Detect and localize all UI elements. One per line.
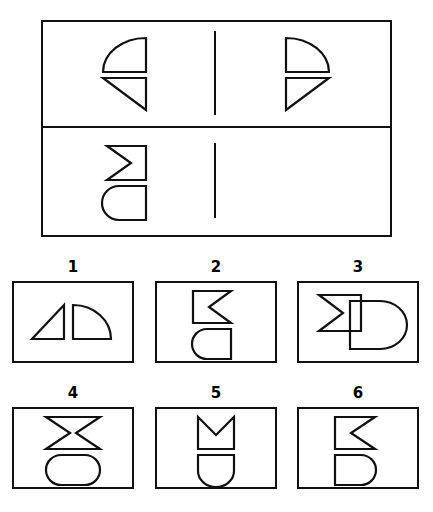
quarter-circle-arc-top-left-shape [103, 38, 146, 72]
stimulus-row2-left-cell [99, 142, 161, 224]
stimulus-row1-separator [214, 31, 216, 115]
d-shape-round-right-shape [335, 455, 376, 485]
right-triangle-hypotenuse-top-right-shape [286, 78, 329, 110]
chevron-notch-top-shape [198, 417, 234, 449]
answer-option-4-art [14, 409, 132, 487]
answer-option-6-box [297, 407, 419, 489]
answer-option-5-box [155, 407, 277, 489]
bowtie-shape [46, 417, 100, 449]
answer-option-3-box [297, 281, 419, 363]
answer-option-2[interactable]: 2 [155, 258, 277, 370]
answer-option-2-art [157, 283, 275, 361]
answer-option-5-label: 5 [155, 384, 277, 402]
d-shape-round-right-shape [350, 301, 407, 349]
d-shape-round-left-shape [102, 186, 146, 220]
answer-option-1-label: 1 [12, 258, 134, 276]
answer-option-2-label: 2 [155, 258, 277, 276]
stimulus-row2-separator [214, 143, 216, 218]
answer-option-6-label: 6 [297, 384, 419, 402]
right-triangle-shape [32, 305, 64, 339]
chevron-notch-right-shape [193, 291, 231, 323]
answer-option-6-art [299, 409, 417, 487]
answer-option-1[interactable]: 1 [12, 258, 134, 370]
answer-option-5[interactable]: 5 [155, 384, 277, 496]
answer-option-4[interactable]: 4 [12, 384, 134, 496]
chevron-notch-right-shape [335, 417, 375, 449]
stimulus-row1-left-cell [99, 34, 161, 114]
quarter-circle-arc-top-right-shape [286, 38, 329, 72]
answer-option-1-art [14, 283, 132, 361]
answer-option-3[interactable]: 3 [297, 258, 419, 370]
answer-option-2-box [155, 281, 277, 363]
answer-option-4-box [12, 407, 134, 489]
answer-option-1-box [12, 281, 134, 363]
answer-option-5-art [157, 409, 275, 487]
test-item-page: 1 2 [0, 0, 433, 512]
stimulus-row1-right-cell [271, 34, 333, 114]
stimulus-row2-right-cell-blank [271, 142, 333, 224]
stimulus-row-divider [43, 126, 390, 128]
d-shape-round-left-shape [192, 329, 231, 359]
stadium-shape [46, 455, 100, 485]
stimulus-panel [41, 20, 392, 237]
answer-option-4-label: 4 [12, 384, 134, 402]
answer-option-3-art [299, 283, 417, 361]
chevron-notch-left-shape [107, 146, 146, 180]
quarter-circle-arc-top-right-shape [73, 305, 111, 339]
answer-options-area: 1 2 [0, 258, 433, 512]
answer-option-6[interactable]: 6 [297, 384, 419, 496]
right-triangle-hypotenuse-top-left-shape [103, 78, 146, 110]
answer-option-3-label: 3 [297, 258, 419, 276]
u-shape-round-bottom-shape [198, 455, 234, 487]
